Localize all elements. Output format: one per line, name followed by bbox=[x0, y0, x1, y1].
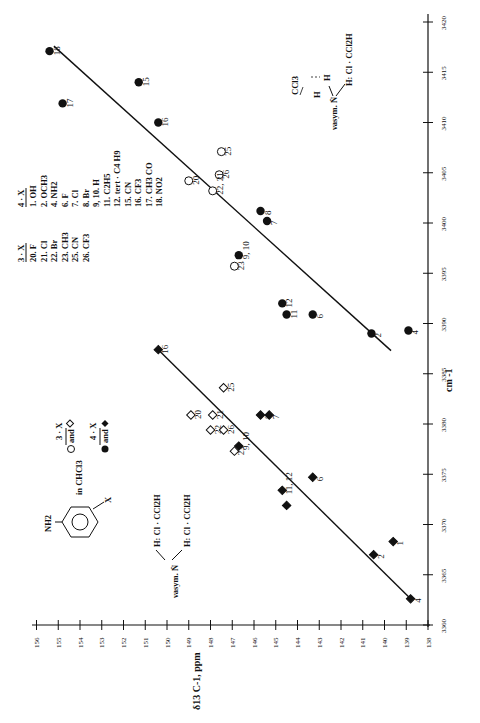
hbond-diagram-upper: νasym. N̈ CCl3 H H H: Cl · CCl2H bbox=[290, 33, 354, 131]
y-tick-label: 3410 bbox=[440, 116, 448, 131]
point-label: 26 bbox=[226, 425, 236, 435]
legend-3x: 3 · X20. F21. Cl22. Br23. CH325. CN26. C… bbox=[16, 232, 91, 262]
legend-4x-item: 1. OH bbox=[28, 185, 38, 207]
legend-4x-item: 2. OCH3 bbox=[39, 175, 49, 207]
aniline-structure: NH2 X in CHCl3 bbox=[43, 460, 113, 537]
point-label: 20 bbox=[193, 409, 203, 419]
point-label: 4 bbox=[410, 330, 420, 335]
nh2-label: NH2 bbox=[43, 515, 53, 532]
point-label: 8 bbox=[263, 210, 273, 215]
y-tick-label: 3380 bbox=[440, 418, 448, 433]
hbond-label-upper: H: Cl · CCl2H bbox=[344, 33, 354, 86]
point-label: 1 bbox=[395, 541, 405, 546]
point-label: 22, 21 bbox=[215, 172, 225, 195]
legend-4x-item: 17. CH3 CO bbox=[144, 162, 154, 207]
ccl3-label: CCl3 bbox=[290, 76, 300, 95]
legend-4x-item: 16. CF3 bbox=[133, 179, 143, 207]
vasym-label-upper: νasym. N̈ bbox=[329, 96, 339, 131]
point-label: 9, 10 bbox=[241, 241, 251, 260]
point-label: 2 bbox=[373, 333, 383, 338]
data-point bbox=[282, 501, 290, 509]
legend-4x-item: 7. Cl bbox=[70, 189, 80, 207]
hbond-diagram-lower: νasym. N̈ H: Cl · CCl2H H: Cl · CCl2H bbox=[152, 494, 192, 599]
hbond-label-lower-1: H: Cl · CCl2H bbox=[152, 494, 162, 547]
legend-3x-header: 3 · X bbox=[16, 244, 26, 262]
point-label: 16 bbox=[160, 344, 170, 354]
y-axis-title: cm -1 bbox=[443, 368, 454, 392]
legend-4x: 4 · X1. OH2. OCH34. NH26. F7. Cl8. Br9, … bbox=[16, 151, 164, 207]
filled-diamond-icon bbox=[101, 420, 108, 427]
point-label: 7 bbox=[271, 414, 281, 419]
legend-4x-item: 9, 10. H bbox=[91, 179, 101, 207]
marker-legend: 3 · X and 4 · X and bbox=[54, 420, 110, 453]
y-tick-label: 3395 bbox=[440, 267, 448, 282]
h-label-1: H bbox=[312, 91, 322, 98]
marker-legend-3x: 3 · X bbox=[54, 422, 64, 440]
data-points: 18171516879, 10121162425262022, 21231687… bbox=[45, 46, 422, 603]
point-label: 21 bbox=[215, 410, 225, 419]
legend-3x-item: 20. F bbox=[28, 244, 38, 262]
chart-figure: 1561551541531521511501491481471461451441… bbox=[0, 0, 480, 723]
point-label: 25 bbox=[223, 146, 233, 156]
x-axis-title: δ13 C-1, ppm bbox=[191, 652, 202, 710]
x-tick-label: 138 bbox=[425, 637, 433, 648]
point-label: 12 bbox=[284, 298, 294, 307]
point-label: 23 bbox=[236, 261, 246, 271]
benzene-ring-icon bbox=[62, 507, 98, 537]
x-tick-label: 156 bbox=[33, 637, 41, 648]
legend-3x-item: 21. Cl bbox=[39, 240, 49, 262]
x-tick-label: 149 bbox=[185, 637, 193, 648]
y-tick-label: 3390 bbox=[440, 317, 448, 332]
y-tick-label: 3415 bbox=[440, 66, 448, 81]
point-label: 15 bbox=[141, 77, 151, 87]
y-tick-label: 3420 bbox=[440, 16, 448, 31]
open-circle-icon bbox=[68, 446, 75, 453]
legend-4x-item: 12. tert · C4 H9 bbox=[112, 151, 122, 207]
x-tick-label: 142 bbox=[338, 637, 346, 648]
legend-4x-item: 4. NH2 bbox=[49, 182, 59, 208]
x-tick-label: 151 bbox=[142, 637, 150, 648]
point-label: 7 bbox=[269, 220, 279, 225]
point-label: 20 bbox=[191, 175, 201, 185]
legend-3x-item: 25. CN bbox=[70, 236, 80, 262]
legend-3x-item: 22. Br bbox=[49, 240, 59, 262]
point-label: 17 bbox=[65, 98, 75, 108]
legend-4x-item: 6. F bbox=[60, 193, 70, 207]
x-tick-label: 147 bbox=[229, 637, 237, 648]
point-label: 6 bbox=[315, 476, 325, 481]
x-tick-label: 150 bbox=[164, 637, 172, 648]
point-label: 4 bbox=[413, 598, 423, 603]
point-label: 11, 12 bbox=[284, 472, 294, 494]
y-tick-label: 3365 bbox=[440, 568, 448, 583]
point-label: 16 bbox=[160, 117, 170, 127]
legend-4x-item: 8. Br bbox=[81, 189, 91, 207]
vasym-label-lower: νasym. N̈ bbox=[170, 564, 180, 599]
point-label: 2 bbox=[376, 554, 386, 559]
legend-3x-item: 23. CH3 bbox=[60, 232, 70, 262]
x-tick-label: 145 bbox=[272, 637, 280, 648]
y-tick-label: 3405 bbox=[440, 166, 448, 181]
scatter-plot: 1561551541531521511501491481471461451441… bbox=[0, 0, 480, 723]
point-label: 6 bbox=[315, 313, 325, 318]
x-tick-label: 140 bbox=[381, 637, 389, 648]
y-tick-label: 3360 bbox=[440, 619, 448, 634]
x-tick-label: 139 bbox=[403, 637, 411, 648]
point-label: 25 bbox=[226, 382, 236, 392]
point-label: 11 bbox=[289, 310, 299, 319]
solvent-label: in CHCl3 bbox=[74, 460, 84, 495]
fit-lines bbox=[54, 46, 411, 599]
marker-legend-3x-and: and bbox=[66, 429, 76, 443]
h-label-2: H bbox=[322, 74, 332, 81]
x-tick-label: 144 bbox=[294, 637, 302, 648]
marker-legend-4x: 4 · X bbox=[88, 422, 98, 440]
hbond-label-lower-2: H: Cl · CCl2H bbox=[182, 494, 192, 547]
legend-4x-header: 4 · X bbox=[16, 189, 26, 207]
filled-circle-icon bbox=[102, 446, 109, 453]
point-label: 23 bbox=[236, 446, 246, 456]
y-tick-label: 3375 bbox=[440, 468, 448, 483]
legend-3x-item: 26. CF3 bbox=[81, 234, 91, 262]
axes: 1561551541531521511501491481471461451441… bbox=[32, 14, 448, 648]
x-tick-label: 141 bbox=[359, 637, 367, 648]
point-label: 18 bbox=[52, 46, 62, 56]
x-tick-label: 154 bbox=[77, 637, 85, 648]
